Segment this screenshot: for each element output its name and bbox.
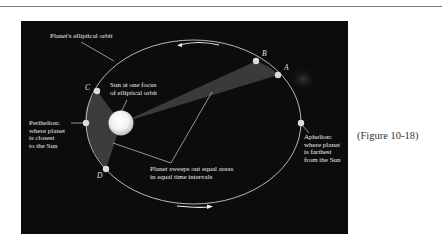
aphelion-leader-line bbox=[302, 125, 309, 133]
orbit-label: Planet's elliptical orbit bbox=[50, 33, 113, 41]
equal-areas-label: Planet sweeps out equal areas in equal t… bbox=[150, 166, 233, 181]
sun bbox=[109, 111, 134, 136]
figure-caption: (Figure 10-18) bbox=[357, 130, 419, 141]
point-c-label: C bbox=[85, 83, 90, 92]
orbit-leader-line bbox=[81, 42, 114, 61]
bottom-motion-arrow-icon bbox=[177, 205, 213, 210]
top-divider bbox=[0, 6, 442, 7]
aphelion-label: Aphelion: where planet is farthest from … bbox=[304, 134, 341, 164]
orbit-diagram-graphic bbox=[21, 21, 348, 234]
perihelion-label: Perihelion: where planet is closest to t… bbox=[29, 120, 65, 150]
planet-point-d bbox=[103, 166, 109, 172]
sun-leader-line bbox=[121, 100, 127, 112]
planet-point-perihelion bbox=[83, 120, 89, 126]
planet-point-aphelion bbox=[298, 120, 304, 126]
planet-point-c bbox=[94, 88, 100, 94]
point-a-label: A bbox=[284, 63, 289, 72]
planet-point-a bbox=[275, 72, 281, 78]
sweep-leader-line-left bbox=[113, 143, 171, 163]
sun-focus-label: Sun at one focus of elliptical orbit bbox=[110, 82, 157, 97]
kepler-second-law-diagram: Planet's elliptical orbit Sun at one foc… bbox=[21, 21, 348, 234]
point-b-label: B bbox=[262, 49, 267, 58]
planet-point-b bbox=[253, 58, 259, 64]
point-d-label: D bbox=[97, 171, 102, 180]
top-motion-arrow-icon bbox=[177, 43, 219, 48]
glow-near-a bbox=[289, 67, 317, 91]
